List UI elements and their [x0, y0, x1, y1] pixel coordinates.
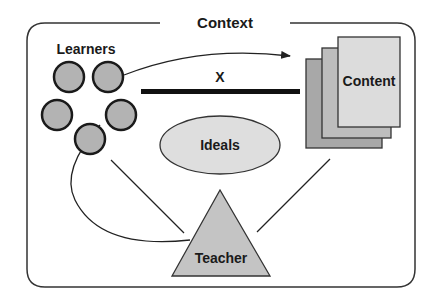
ideals-label: Ideals — [200, 137, 240, 153]
learner-circle — [42, 100, 72, 130]
learners-teacher-line — [111, 160, 184, 233]
barrier-bar — [141, 89, 300, 94]
learners-label: Learners — [56, 41, 115, 57]
context-label: Context — [197, 14, 253, 31]
learners-to-content-arrow — [124, 53, 290, 75]
content-teacher-line — [257, 159, 330, 232]
learner-circle — [75, 124, 105, 154]
content-pages — [306, 37, 400, 148]
content-label: Content — [343, 73, 396, 89]
learner-circle — [106, 100, 136, 130]
teacher-label: Teacher — [195, 250, 248, 266]
teaching-context-diagram: Context Learners X Content Ideals Teache… — [0, 0, 440, 303]
learner-circle — [54, 62, 84, 92]
learner-circle — [93, 62, 123, 92]
learner-circles — [42, 62, 136, 154]
barrier-label: X — [215, 69, 225, 85]
